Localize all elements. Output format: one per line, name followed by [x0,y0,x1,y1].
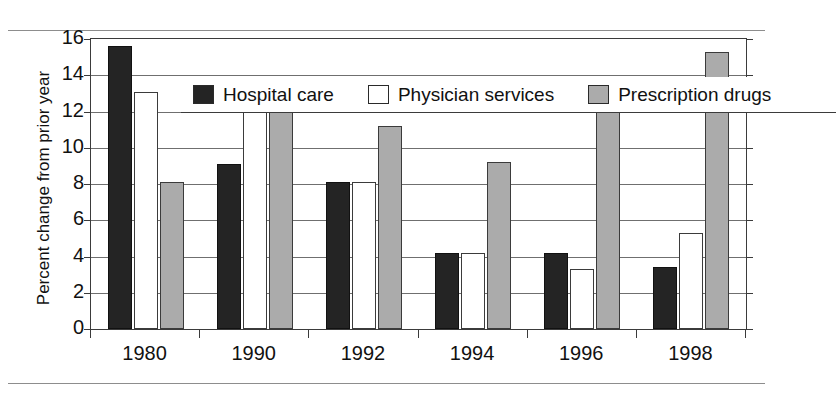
x-tick-mark [636,329,637,338]
y-tick-mark [746,329,753,330]
y-tick-label: 4 [50,245,84,265]
x-tick-mark [90,329,91,338]
y-tick-mark [746,184,753,185]
legend-label: Physician services [398,84,554,106]
y-axis-tick-labels: 0246810121416 [48,0,84,393]
gridline [91,257,746,258]
y-tick-mark [746,220,753,221]
bar [679,233,703,329]
legend-label: Hospital care [223,84,334,106]
x-tick-label: 1998 [635,342,745,365]
legend-entry: Prescription drugs [588,84,771,106]
legend-entries: Hospital carePhysician servicesPrescript… [181,77,836,112]
y-tick-mark [84,293,91,294]
bar [570,269,594,329]
x-tick-label: 1996 [526,342,636,365]
y-tick-mark [746,39,753,40]
y-tick-label: 2 [50,281,84,301]
x-tick-mark [745,329,746,338]
y-tick-label: 6 [50,208,84,228]
y-tick-label: 10 [50,136,84,156]
y-tick-mark [84,184,91,185]
x-tick-mark [527,329,528,338]
bar [326,182,350,329]
bar [243,110,267,329]
legend-swatch-hospital [193,85,214,104]
x-tick-mark [418,329,419,338]
y-tick-label: 16 [50,27,84,47]
bar [378,126,402,329]
bottom-divider-rule [8,383,765,384]
y-tick-label: 12 [50,100,84,120]
legend-label: Prescription drugs [618,84,771,106]
y-tick-label: 0 [50,317,84,337]
gridline [91,184,746,185]
plot-area: Hospital carePhysician servicesPrescript… [90,38,747,330]
bar [544,253,568,329]
x-tick-mark [308,329,309,338]
x-tick-label: 1994 [417,342,527,365]
top-divider-rule [8,30,765,31]
y-tick-label: 8 [50,172,84,192]
x-tick-label: 1990 [199,342,309,365]
legend-swatch-physician [368,85,389,104]
y-tick-mark [746,293,753,294]
bar [134,92,158,329]
bar [461,253,485,329]
y-tick-mark [84,148,91,149]
bar [653,267,677,329]
x-tick-mark [199,329,200,338]
y-tick-mark [746,148,753,149]
gridline [91,293,746,294]
x-tick-label: 1992 [308,342,418,365]
legend-swatch-drugs [588,85,609,104]
y-tick-mark [84,257,91,258]
bar [435,253,459,329]
y-tick-mark [84,39,91,40]
y-tick-mark [84,75,91,76]
bar [108,46,132,329]
chart-legend: Hospital carePhysician servicesPrescript… [181,77,836,113]
legend-entry: Hospital care [193,84,334,106]
y-tick-mark [84,220,91,221]
x-tick-label: 1980 [90,342,200,365]
bar [352,182,376,329]
gridline [91,220,746,221]
bar [217,164,241,329]
y-tick-mark [84,112,91,113]
y-tick-label: 14 [50,63,84,83]
bar [269,110,293,329]
y-tick-mark [746,257,753,258]
legend-entry: Physician services [368,84,554,106]
bar [160,182,184,329]
bar [596,88,620,329]
bar [487,162,511,329]
gridline [91,148,746,149]
